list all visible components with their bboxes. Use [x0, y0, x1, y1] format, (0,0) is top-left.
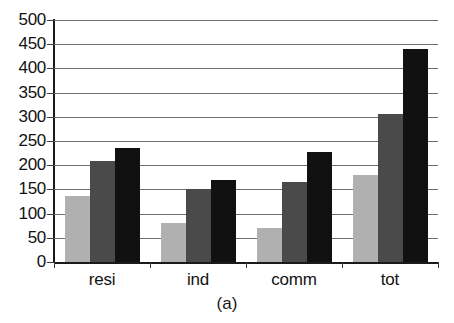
x-tick-label-comm: comm — [246, 270, 342, 289]
y-tick-label-300: 300 — [2, 108, 46, 125]
bar-tot-series-2 — [378, 114, 403, 262]
y-tick-label-250: 250 — [2, 132, 46, 149]
bar-chart-figure: 500450400350300250200150100500 resiindco… — [0, 0, 454, 323]
bar-tot-series-3 — [403, 49, 428, 262]
x-tick-label-tot: tot — [342, 270, 438, 289]
x-tick-separator-3 — [342, 262, 343, 268]
bar-comm-series-2 — [282, 182, 307, 262]
bar-group-tot — [342, 20, 438, 262]
y-tick-mark-200 — [47, 165, 54, 166]
y-tick-label-50: 50 — [2, 229, 46, 246]
y-tick-mark-150 — [47, 189, 54, 190]
y-axis-tick-labels: 500450400350300250200150100500 — [0, 0, 46, 323]
y-tick-mark-350 — [47, 93, 54, 94]
bars-resi — [54, 20, 150, 262]
figure-caption: (a) — [0, 294, 454, 314]
bar-group-resi — [54, 20, 150, 262]
y-tick-mark-0 — [47, 262, 54, 263]
bars-tot — [342, 20, 438, 262]
y-tick-label-150: 150 — [2, 180, 46, 197]
bar-comm-series-3 — [307, 152, 332, 262]
x-axis-end-tick-0 — [54, 262, 55, 268]
y-tick-mark-300 — [47, 117, 54, 118]
y-tick-mark-450 — [47, 44, 54, 45]
y-tick-mark-500 — [47, 20, 54, 21]
bar-group-comm — [246, 20, 342, 262]
x-tick-label-ind: ind — [150, 270, 246, 289]
y-tick-label-0: 0 — [2, 253, 46, 270]
bar-resi-series-1 — [65, 196, 90, 262]
y-tick-mark-100 — [47, 214, 54, 215]
y-tick-label-350: 350 — [2, 84, 46, 101]
bars-comm — [246, 20, 342, 262]
bar-comm-series-1 — [257, 228, 282, 262]
bars-ind — [150, 20, 246, 262]
bar-ind-series-2 — [186, 189, 211, 262]
bar-tot-series-1 — [353, 175, 378, 262]
bar-ind-series-1 — [161, 223, 186, 262]
y-tick-label-400: 400 — [2, 59, 46, 76]
y-tick-label-200: 200 — [2, 156, 46, 173]
y-tick-label-500: 500 — [2, 11, 46, 28]
y-tick-mark-250 — [47, 141, 54, 142]
plot-area — [54, 20, 438, 262]
x-tick-separator-2 — [246, 262, 247, 268]
y-tick-label-450: 450 — [2, 35, 46, 52]
bar-resi-series-3 — [115, 148, 140, 262]
y-tick-label-100: 100 — [2, 205, 46, 222]
y-tick-mark-50 — [47, 238, 54, 239]
bar-resi-series-2 — [90, 161, 115, 262]
bar-ind-series-3 — [211, 180, 236, 262]
y-tick-mark-400 — [47, 68, 54, 69]
x-axis-end-tick-4 — [438, 262, 439, 268]
x-tick-separator-1 — [150, 262, 151, 268]
x-tick-label-resi: resi — [54, 270, 150, 289]
bar-group-ind — [150, 20, 246, 262]
